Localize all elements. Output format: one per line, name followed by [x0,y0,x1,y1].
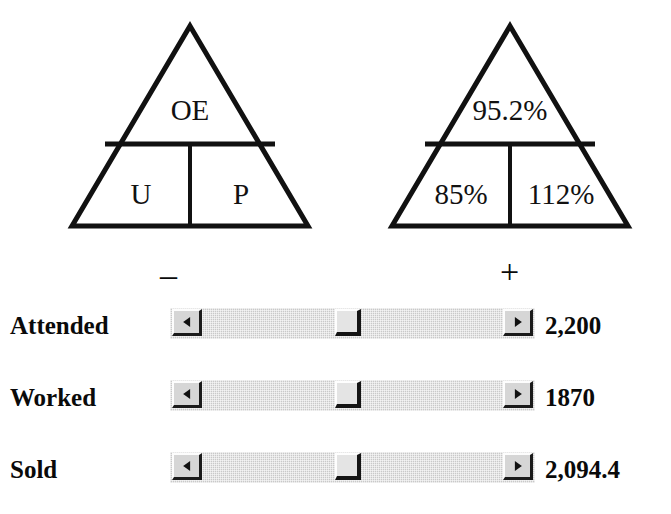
slider-thumb-worked[interactable] [335,381,361,408]
slider-track-attended[interactable] [170,308,535,339]
slider-increase-button-attended[interactable] [503,309,533,336]
slider-scale-legend: – + [0,262,671,298]
pyramid-cell-top-left-diagram: OE [67,96,313,125]
pyramid-cell-bottom-right-right-diagram: 112% [511,180,611,209]
slider-panel: – + Attended 2,200 Worked [0,262,671,514]
plus-sign-label: + [500,255,519,289]
slider-value-worked: 1870 [545,384,595,412]
slider-row-label-sold: Sold [10,456,160,484]
slider-row-label-worked: Worked [10,384,160,412]
pyramid-cell-bottom-left-left-diagram: U [91,180,191,209]
minus-sign-label: – [160,258,177,292]
slider-decrease-button-worked[interactable] [172,381,202,408]
slider-increase-button-worked[interactable] [503,381,533,408]
triangle-left-icon [183,461,190,471]
slider-row-label-attended: Attended [10,312,160,340]
slider-track-worked[interactable] [170,380,535,411]
pyramid-cell-bottom-right-left-diagram: P [191,180,291,209]
slider-row-worked: Worked 1870 [0,376,671,422]
triangle-right-icon [514,461,521,471]
slider-value-sold: 2,094.4 [545,456,620,484]
diagram-page: OE U P 95.2% 85% 112% – + Attended [0,0,671,514]
pyramid-diagram-values: 95.2% 85% 112% [387,20,633,232]
slider-track-sold[interactable] [170,452,535,483]
slider-decrease-button-sold[interactable] [172,453,202,480]
slider-row-sold: Sold 2,094.4 [0,448,671,494]
pyramid-cell-top-right-diagram: 95.2% [387,96,633,125]
triangle-right-icon [514,389,521,399]
pyramid-diagram-abbreviations: OE U P [67,20,313,232]
slider-increase-button-sold[interactable] [503,453,533,480]
slider-value-attended: 2,200 [545,312,601,340]
triangle-left-icon [183,317,190,327]
triangle-right-icon [514,317,521,327]
slider-thumb-attended[interactable] [335,309,361,336]
slider-row-attended: Attended 2,200 [0,304,671,350]
pyramid-cell-bottom-left-right-diagram: 85% [411,180,511,209]
slider-thumb-sold[interactable] [335,453,361,480]
slider-decrease-button-attended[interactable] [172,309,202,336]
triangle-left-icon [183,389,190,399]
